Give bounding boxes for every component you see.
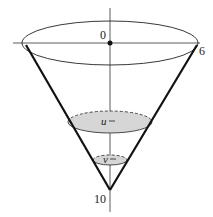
origin-label: 0	[100, 28, 106, 42]
depth-label: 10	[94, 192, 106, 206]
u-label: u	[101, 115, 107, 127]
radius-label: 6	[199, 44, 205, 58]
v-label: v	[103, 153, 108, 165]
origin-point	[108, 41, 113, 46]
cone-diagram: 0 6 10 u v	[0, 0, 213, 217]
